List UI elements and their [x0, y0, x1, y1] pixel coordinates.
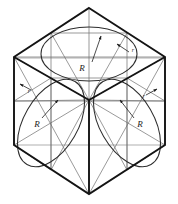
isometric-cube-drawing: R R R r r r [0, 0, 178, 204]
label-radius-left: R [33, 119, 40, 129]
isometric-cube-figure: R R R r r r [0, 0, 178, 204]
label-radius-top: R [78, 63, 85, 73]
label-radius-right: R [136, 119, 143, 129]
